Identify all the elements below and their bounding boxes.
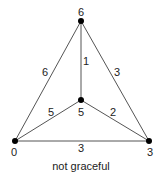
edges — [15, 21, 149, 141]
vertex-label-bottom-right: 3 — [147, 146, 153, 158]
edge-label-top-center: 1 — [83, 55, 89, 67]
vertex-label-center: 5 — [78, 106, 84, 118]
edge-label-bottom: 3 — [78, 142, 84, 154]
vertex-center — [78, 97, 84, 103]
graph-diagram: 6 5 0 3 6 1 3 5 2 3 not graceful — [0, 0, 162, 181]
edge-label-center-bottom-left: 5 — [48, 106, 54, 118]
vertex-bottom-left — [12, 138, 18, 144]
edge-top-bottom-left — [15, 21, 81, 141]
edge-label-top-bottom-left: 6 — [42, 66, 48, 78]
caption: not graceful — [52, 160, 109, 172]
vertex-label-top: 6 — [78, 6, 84, 18]
vertex-bottom-right — [146, 138, 152, 144]
edge-label-top-bottom-right: 3 — [114, 66, 120, 78]
vertices — [12, 18, 152, 144]
vertex-top — [78, 18, 84, 24]
edge-label-center-bottom-right: 2 — [110, 106, 116, 118]
vertex-label-bottom-left: 0 — [11, 146, 17, 158]
edge-top-bottom-right — [81, 21, 149, 141]
